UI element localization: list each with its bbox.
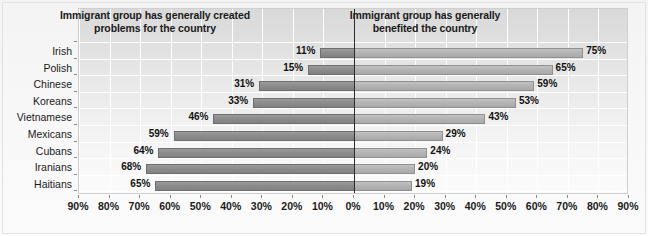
y-tick-1 <box>74 58 77 59</box>
bar-value-left-mexicans: 59% <box>111 128 169 139</box>
x-tick-5 <box>231 195 232 198</box>
y-tick-3 <box>74 91 77 92</box>
x-tick-1 <box>109 195 110 198</box>
x-tick-17 <box>597 195 598 198</box>
x-tick-13 <box>475 195 476 198</box>
category-label-iranians: Iranians <box>0 161 72 173</box>
x-tick-2 <box>139 195 140 198</box>
x-tick-0 <box>78 195 79 198</box>
bar-row <box>79 161 627 178</box>
bar-row <box>79 95 627 112</box>
bar-value-right-koreans: 53% <box>519 95 539 106</box>
category-axis: IrishPolishChineseKoreansVietnameseMexic… <box>0 8 72 194</box>
bar-right-koreans <box>354 98 516 108</box>
y-tick-4 <box>74 107 77 108</box>
panel-title-left-line2: problems for the country <box>94 22 216 34</box>
x-tick-3 <box>170 195 171 198</box>
y-tick-0 <box>74 41 77 42</box>
y-tick-6 <box>74 141 77 142</box>
category-label-chinese: Chinese <box>0 78 72 90</box>
x-axis-label-18: 90% <box>608 200 648 212</box>
bar-value-left-polish: 15% <box>245 62 303 73</box>
category-label-irish: Irish <box>0 45 72 57</box>
bar-left-iranians <box>146 164 354 174</box>
panel-title-left: Immigrant group has generally created pr… <box>30 9 280 34</box>
bar-right-polish <box>354 65 553 75</box>
y-tick-5 <box>74 124 77 125</box>
bar-value-right-chinese: 59% <box>537 78 557 89</box>
category-label-haitians: Haitians <box>0 178 72 190</box>
bar-value-left-irish: 11% <box>257 45 315 56</box>
x-tick-18 <box>628 195 629 198</box>
bar-value-right-vietnamese: 43% <box>488 111 508 122</box>
bar-left-vietnamese <box>213 114 354 124</box>
bar-left-cubans <box>158 148 354 158</box>
panel-title-left-line1: Immigrant group has generally created <box>60 9 250 21</box>
category-label-polish: Polish <box>0 62 72 74</box>
bar-value-right-cubans: 24% <box>430 145 450 156</box>
y-tick-2 <box>74 74 77 75</box>
bar-left-mexicans <box>174 131 354 141</box>
gridline-y-0 <box>79 42 627 43</box>
x-tick-6 <box>261 195 262 198</box>
bar-value-right-polish: 65% <box>556 62 576 73</box>
x-tick-10 <box>384 195 385 198</box>
bar-value-left-chinese: 31% <box>196 78 254 89</box>
y-tick-8 <box>74 174 77 175</box>
bar-left-haitians <box>155 181 354 191</box>
bar-row <box>79 45 627 62</box>
bar-right-vietnamese <box>354 114 485 124</box>
bar-right-irish <box>354 48 583 58</box>
y-tick-7 <box>74 157 77 158</box>
bar-left-koreans <box>253 98 354 108</box>
chart-container: IrishPolishChineseKoreansVietnameseMexic… <box>0 0 648 236</box>
bar-value-right-iranians: 20% <box>418 161 438 172</box>
bar-left-chinese <box>259 81 354 91</box>
x-tick-14 <box>506 195 507 198</box>
x-tick-9 <box>353 195 354 198</box>
bar-right-haitians <box>354 181 412 191</box>
bar-value-left-vietnamese: 46% <box>150 111 208 122</box>
bar-right-cubans <box>354 148 427 158</box>
panel-title-right-line1: Immigrant group has generally <box>350 9 501 21</box>
bar-value-left-haitians: 65% <box>92 178 150 189</box>
bar-value-right-irish: 75% <box>586 45 606 56</box>
bar-row <box>79 145 627 162</box>
bar-right-mexicans <box>354 131 443 141</box>
category-label-cubans: Cubans <box>0 145 72 157</box>
bar-row <box>79 62 627 79</box>
x-tick-7 <box>292 195 293 198</box>
bar-value-left-cubans: 64% <box>95 145 153 156</box>
bar-right-chinese <box>354 81 534 91</box>
zero-axis-line <box>354 9 355 193</box>
x-tick-4 <box>200 195 201 198</box>
category-label-vietnamese: Vietnamese <box>0 111 72 123</box>
bar-left-polish <box>308 65 354 75</box>
x-axis-labels: 90%80%70%60%50%40%30%20%10%0%10%20%30%40… <box>0 200 648 216</box>
category-label-koreans: Koreans <box>0 95 72 107</box>
panel-title-right-line2: benefited the country <box>373 22 478 34</box>
x-tick-15 <box>536 195 537 198</box>
x-tick-12 <box>445 195 446 198</box>
bar-value-left-iranians: 68% <box>83 161 141 172</box>
bar-value-left-koreans: 33% <box>190 95 248 106</box>
plot-area <box>78 8 628 194</box>
bar-right-iranians <box>354 164 415 174</box>
x-tick-16 <box>567 195 568 198</box>
bar-value-right-mexicans: 29% <box>446 128 466 139</box>
bar-value-right-haitians: 19% <box>415 178 435 189</box>
category-label-mexicans: Mexicans <box>0 128 72 140</box>
bar-left-irish <box>320 48 354 58</box>
y-tick-9 <box>74 190 77 191</box>
x-tick-11 <box>414 195 415 198</box>
panel-title-right: Immigrant group has generally benefited … <box>300 9 550 34</box>
x-tick-8 <box>322 195 323 198</box>
bar-row <box>79 178 627 194</box>
